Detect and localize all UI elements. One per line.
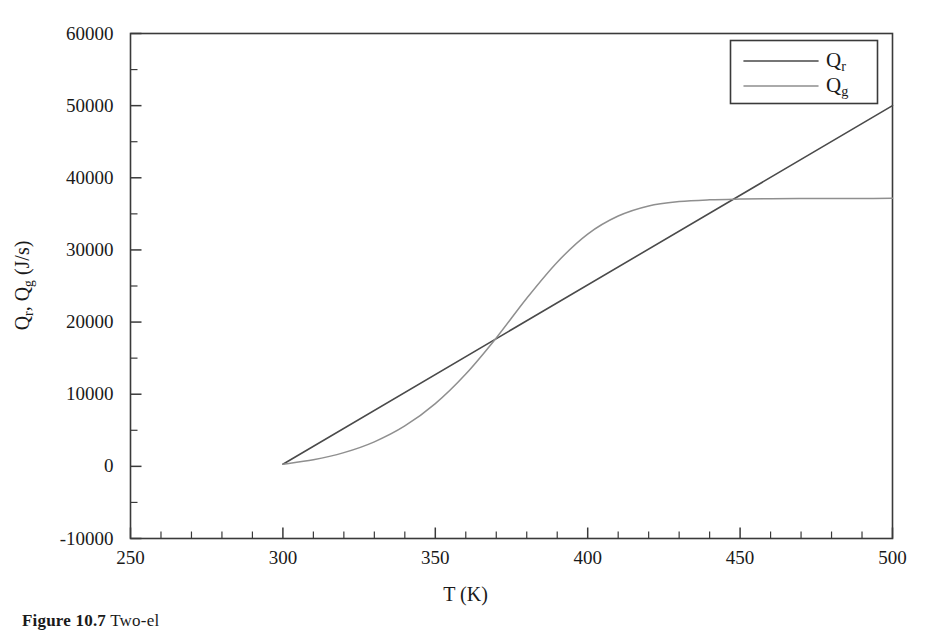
series-line-qg [283, 198, 893, 464]
y-axis-title-units: (J/s) [12, 241, 34, 280]
x-axis-title: T (K) [0, 583, 931, 606]
plot-frame [131, 34, 893, 539]
y-axis-title-q1: Q [12, 316, 34, 330]
x-tick-label: 500 [843, 548, 931, 567]
figure-caption-prefix: Figure 10.7 [22, 611, 106, 630]
y-axis-title-sub-r: r [21, 311, 36, 316]
legend-label-qg: Qg [826, 73, 848, 98]
legend-label-qr-main: Q [826, 48, 841, 72]
figure-container: -100000100002000030000400005000060000 25… [0, 0, 931, 630]
x-tick-label: 450 [690, 548, 790, 567]
legend-label-qg-sub: g [841, 83, 848, 99]
y-axis-title: Qr, Qg (J/s) [12, 241, 35, 331]
y-axis-minor-ticks [131, 70, 138, 503]
x-axis-major-ticks [131, 528, 893, 539]
x-tick-label: 400 [538, 548, 638, 567]
x-tick-label: 300 [233, 548, 333, 567]
legend-label-qr-sub: r [841, 58, 846, 74]
y-axis-title-sub-g: g [21, 280, 36, 287]
y-axis-title-sep: , Q [12, 287, 34, 311]
chart-canvas [0, 0, 931, 630]
x-tick-label: 350 [385, 548, 485, 567]
figure-caption: Figure 10.7 Two-el [22, 611, 912, 630]
legend-label-qr: Qr [826, 48, 846, 73]
y-axis-title-wrapper: Qr, Qg (J/s) [8, 0, 38, 571]
x-axis-minor-ticks [161, 532, 862, 539]
legend-box [731, 41, 878, 104]
x-tick-label: 250 [81, 548, 181, 567]
figure-caption-text: Two-el [110, 611, 159, 630]
legend-label-qg-main: Q [826, 73, 841, 97]
series-line-qr [283, 106, 893, 465]
